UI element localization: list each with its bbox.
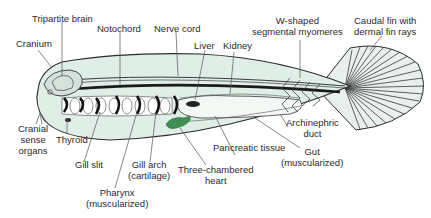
label-kidney: Kidney [223,40,252,51]
label-liver: Liver [194,40,215,51]
label-cranium: Cranium [16,38,52,49]
label-archinephric-duct: Archinephric duct [286,117,339,139]
liver [186,101,200,107]
thyroid [65,118,71,122]
label-cranial-sense-organs: Cranial sense organs [18,123,48,156]
chordate-anatomy-diagram: Tripartite brain Cranium Notochord Nerve… [0,0,431,218]
label-pancreatic-tissue: Pancreatic tissue [213,142,285,153]
label-thyroid: Thyroid [56,134,88,145]
label-tripartite-brain: Tripartite brain [32,13,93,24]
label-gill-arch: Gill arch (cartilage) [128,159,170,181]
label-nerve-cord: Nerve cord [154,23,200,34]
label-pharynx: Pharynx (muscularized) [86,187,148,209]
label-gut: Gut (muscularized) [281,146,343,168]
label-notochord: Notochord [97,23,141,34]
label-caudal-fin: Caudal fin with dermal fin rays [354,15,416,37]
label-gill-slit: Gill slit [75,159,103,170]
gut [178,96,302,119]
pharynx-gills [62,96,177,116]
label-myomeres: W-shaped segmental myomeres [252,15,343,37]
label-heart: Three-chambered heart [178,164,254,186]
